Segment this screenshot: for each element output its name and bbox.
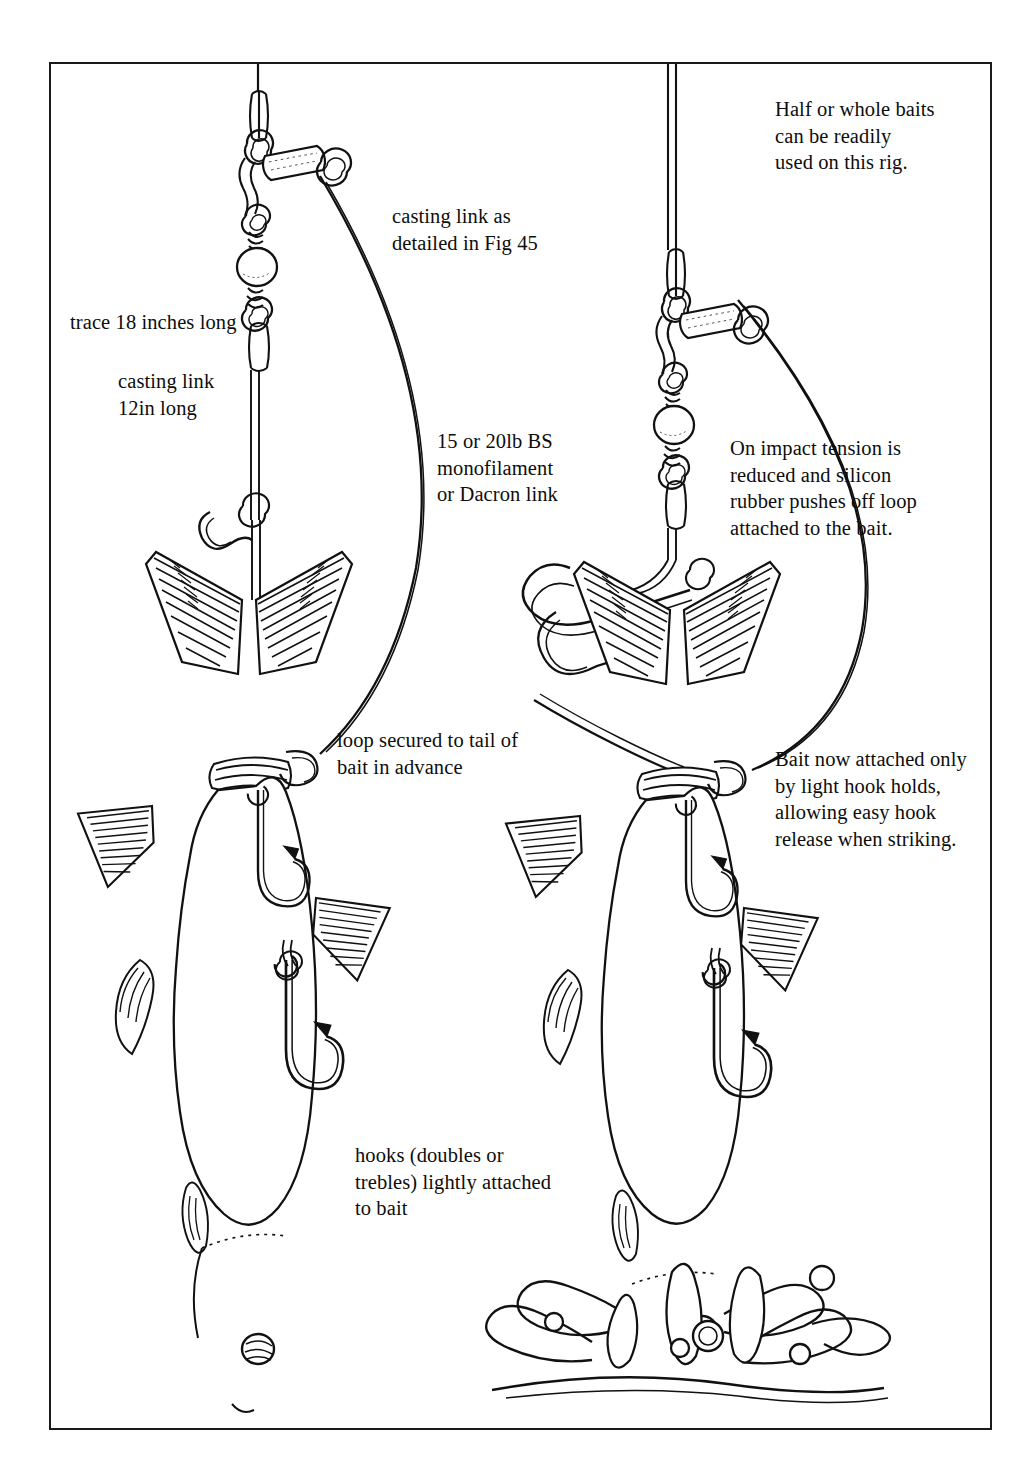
caption-bait-now-attached: Bait now attached only by light hook hol… bbox=[775, 746, 990, 853]
figure-page: Half or whole baits can be readily used … bbox=[0, 0, 1026, 1480]
caption-on-impact: On impact tension is reduced and silicon… bbox=[730, 435, 980, 542]
caption-hooks-attached: hooks (doubles or trebles) lightly attac… bbox=[355, 1142, 580, 1222]
caption-trace-length: trace 18 inches long bbox=[70, 309, 300, 336]
caption-casting-link-12in: casting link 12in long bbox=[118, 368, 278, 421]
caption-loop-secured: loop secured to tail of bait in advance bbox=[337, 727, 557, 780]
caption-mono-dacron-link: 15 or 20lb BS monofilament or Dacron lin… bbox=[437, 428, 622, 508]
caption-casting-link-fig45: casting link as detailed in Fig 45 bbox=[392, 203, 597, 256]
caption-half-whole-baits: Half or whole baits can be readily used … bbox=[775, 96, 990, 176]
